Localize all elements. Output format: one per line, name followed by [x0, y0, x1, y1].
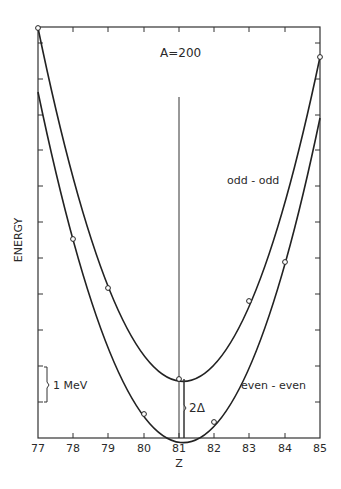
x-ticks-top [73, 27, 285, 32]
svg-text:79: 79 [101, 442, 115, 455]
odd-odd-label: odd - odd [227, 174, 279, 187]
x-tick-labels: 77 78 79 80 81 82 83 84 85 [31, 442, 327, 455]
svg-text:83: 83 [242, 442, 256, 455]
svg-text:78: 78 [66, 442, 80, 455]
gap-label: 2Δ [189, 401, 206, 415]
svg-text:85: 85 [313, 442, 327, 455]
y-ticks-right [315, 43, 320, 402]
svg-text:77: 77 [31, 442, 45, 455]
x-axis-label: Z [175, 457, 183, 470]
svg-text:81: 81 [172, 442, 186, 455]
chart-title: A=200 [160, 46, 201, 60]
svg-text:80: 80 [137, 442, 151, 455]
even-even-label: even - even [241, 379, 306, 392]
svg-text:82: 82 [207, 442, 221, 455]
scale-bracket-icon [44, 367, 49, 402]
scale-label: 1 MeV [53, 379, 88, 392]
svg-text:84: 84 [278, 442, 292, 455]
y-axis-label: ENERGY [12, 217, 25, 262]
mass-parabola-chart: 2Δ 1 MeV A=200 odd - odd even - even ENE… [0, 0, 341, 489]
